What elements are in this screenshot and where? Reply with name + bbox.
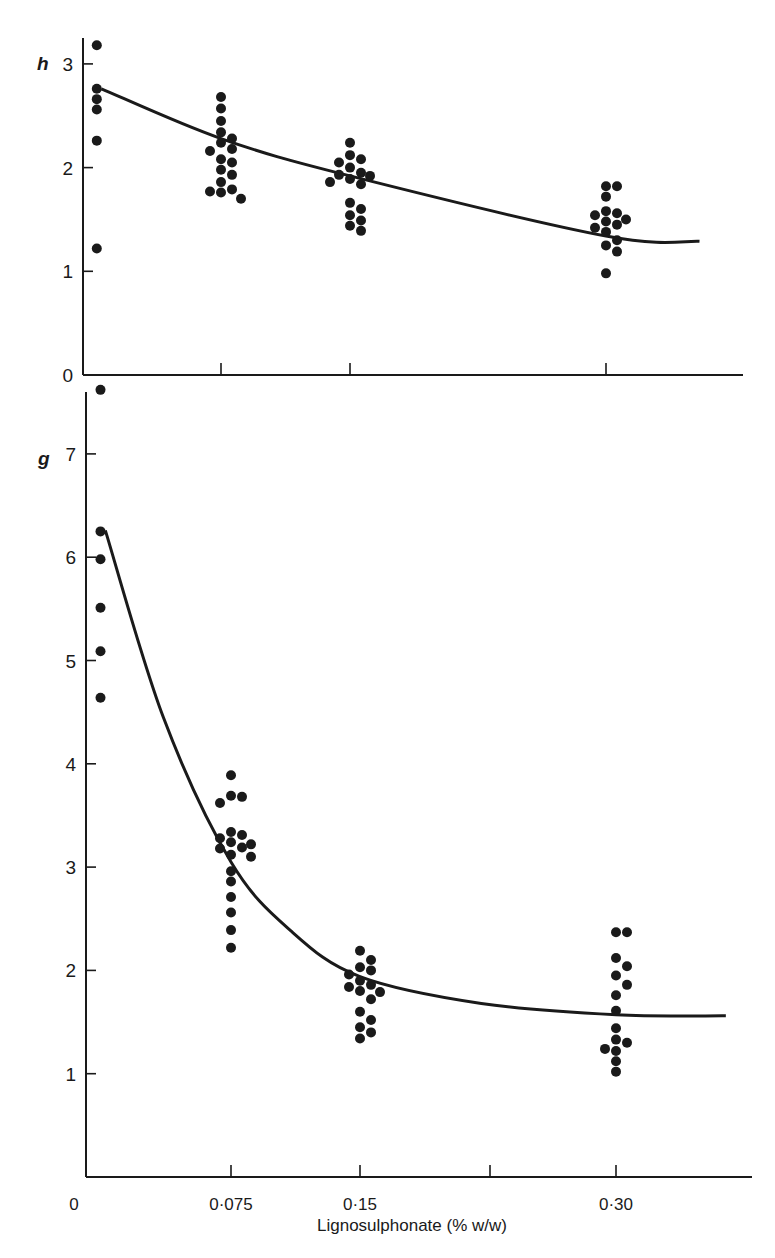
data-point	[366, 1015, 376, 1025]
data-point	[226, 770, 236, 780]
data-point	[325, 177, 335, 187]
y-tick-label: 5	[65, 651, 76, 672]
data-point	[226, 850, 236, 860]
bottom-y-axis-label: g	[37, 448, 50, 469]
data-point	[590, 223, 600, 233]
data-point	[356, 179, 366, 189]
y-tick-label: 1	[65, 1064, 76, 1085]
data-point	[334, 157, 344, 167]
data-point	[227, 157, 237, 167]
data-point	[226, 925, 236, 935]
data-point	[205, 186, 215, 196]
data-point	[601, 206, 611, 216]
data-point	[92, 40, 102, 50]
data-point	[344, 982, 354, 992]
data-point	[365, 171, 375, 181]
data-point	[92, 84, 102, 94]
top-x-ticks	[221, 363, 606, 375]
x-tick-label: 0·30	[599, 1195, 633, 1214]
data-point	[611, 1006, 621, 1016]
data-point	[366, 980, 376, 990]
data-point	[334, 170, 344, 180]
data-point	[226, 827, 236, 837]
data-point	[375, 987, 385, 997]
top-panel-h: 0123 h	[37, 38, 743, 386]
data-point	[611, 1056, 621, 1066]
bottom-panel-g: 1234567 0·0750·150·300 g Lignosulphonate…	[37, 385, 752, 1235]
y-tick-label: 2	[65, 960, 76, 981]
data-point	[237, 830, 247, 840]
y-tick-label: 3	[65, 857, 76, 878]
data-point	[601, 227, 611, 237]
data-point	[227, 134, 237, 144]
data-point	[612, 247, 622, 257]
y-tick-label: 7	[65, 444, 76, 465]
y-tick-label: 2	[62, 158, 73, 179]
data-point	[622, 927, 632, 937]
data-point	[356, 226, 366, 236]
data-point	[601, 181, 611, 191]
data-point	[356, 154, 366, 164]
data-point	[355, 1034, 365, 1044]
data-point	[622, 961, 632, 971]
data-point	[601, 268, 611, 278]
data-point	[215, 833, 225, 843]
bottom-data-points	[96, 385, 633, 1077]
data-point	[611, 953, 621, 963]
data-point	[226, 943, 236, 953]
data-point	[96, 526, 106, 536]
data-point	[612, 220, 622, 230]
bottom-fit-curve	[105, 530, 726, 1016]
data-point	[355, 1007, 365, 1017]
data-point	[227, 170, 237, 180]
data-point	[621, 214, 631, 224]
bottom-x-ticks: 0·0750·150·300	[69, 1165, 633, 1214]
data-point	[622, 1038, 632, 1048]
data-point	[345, 174, 355, 184]
data-point	[366, 994, 376, 1004]
data-point	[96, 646, 106, 656]
data-point	[356, 204, 366, 214]
y-tick-label: 4	[65, 754, 76, 775]
data-point	[622, 980, 632, 990]
data-point	[96, 603, 106, 613]
data-point	[215, 844, 225, 854]
data-point	[216, 92, 226, 102]
data-point	[216, 165, 226, 175]
bottom-y-ticks: 1234567	[65, 444, 96, 1085]
data-point	[611, 1035, 621, 1045]
data-point	[216, 138, 226, 148]
data-point	[246, 839, 256, 849]
data-point	[345, 163, 355, 173]
data-point	[226, 877, 236, 887]
data-point	[92, 94, 102, 104]
data-point	[611, 971, 621, 981]
data-point	[355, 986, 365, 996]
data-point	[611, 927, 621, 937]
top-data-points	[92, 40, 631, 278]
data-point	[227, 144, 237, 154]
data-point	[366, 965, 376, 975]
top-y-axis-label: h	[37, 53, 49, 74]
data-point	[611, 1067, 621, 1077]
data-point	[92, 136, 102, 146]
x-tick-label: 0·075	[209, 1195, 252, 1214]
data-point	[590, 210, 600, 220]
data-point	[236, 194, 246, 204]
data-point	[345, 150, 355, 160]
data-point	[237, 842, 247, 852]
data-point	[355, 1022, 365, 1032]
data-point	[355, 946, 365, 956]
data-point	[92, 105, 102, 115]
data-point	[205, 146, 215, 156]
data-point	[345, 210, 355, 220]
y-tick-label: 3	[62, 54, 73, 75]
data-point	[344, 970, 354, 980]
data-point	[356, 168, 366, 178]
data-point	[216, 127, 226, 137]
data-point	[227, 184, 237, 194]
figure: 0123 h 1234567 0·0750·150·300 g Lignosul…	[0, 0, 775, 1258]
data-point	[226, 908, 236, 918]
data-point	[96, 385, 106, 395]
data-point	[366, 1027, 376, 1037]
